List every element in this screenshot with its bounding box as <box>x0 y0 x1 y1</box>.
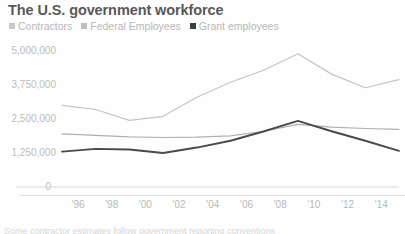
legend-item-contractors[interactable]: Contractors <box>9 21 72 32</box>
square-swatch-icon <box>9 23 15 29</box>
legend-item-label: Contractors <box>18 21 72 32</box>
x-axis-tick-label: '98 <box>105 200 118 210</box>
x-axis-tick-label: '12 <box>341 200 354 210</box>
x-axis-tick-label: '02 <box>173 200 186 210</box>
series-line-grant-employees <box>62 121 399 153</box>
x-axis-tick-label: '14 <box>375 200 388 210</box>
x-axis-tick-label: '10 <box>307 200 320 210</box>
plot-area <box>0 36 405 196</box>
legend-item-label: Grant employees <box>199 21 279 32</box>
x-axis-tick-label: '08 <box>274 200 287 210</box>
square-swatch-icon <box>190 23 196 29</box>
x-axis-tick-label: '96 <box>71 200 84 210</box>
square-swatch-icon <box>81 23 87 29</box>
x-axis-tick-label: '04 <box>206 200 219 210</box>
x-axis-tick-label: '00 <box>139 200 152 210</box>
series-line-contractors <box>62 54 399 121</box>
x-axis-tick-label: '06 <box>240 200 253 210</box>
page-title: The U.S. government workforce <box>8 2 223 18</box>
chart-footnote: Some contractor estimates follow governm… <box>4 226 405 234</box>
legend-item-label: Federal Employees <box>90 21 180 32</box>
x-axis-tick-labels: '96'98'00'02'04'06'08'10'12'14'16 <box>62 200 405 216</box>
chart-figure: The U.S. government workforce Contractor… <box>0 0 405 234</box>
legend-item-grant-employees[interactable]: Grant employees <box>190 21 279 32</box>
legend-item-federal-employees[interactable]: Federal Employees <box>81 21 180 32</box>
chart-legend: Contractors Federal Employees Grant empl… <box>9 21 279 32</box>
line-chart-svg <box>0 36 405 196</box>
